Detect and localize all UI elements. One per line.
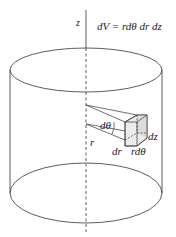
dtheta-label: dθ [100, 120, 111, 131]
cylindrical-volume-element-diagram: z dV = rdθ dr dz dθ r dr rdθ dz [0, 0, 176, 237]
r-label: r [90, 137, 94, 148]
rdtheta-label: rdθ [131, 146, 146, 157]
diagram-drawing [0, 0, 176, 237]
volume-equation: dV = rdθ dr dz [97, 21, 162, 32]
dz-label: dz [148, 131, 158, 142]
volume-element [86, 105, 147, 146]
z-axis-label: z [76, 18, 80, 28]
dr-label: dr [112, 146, 122, 157]
